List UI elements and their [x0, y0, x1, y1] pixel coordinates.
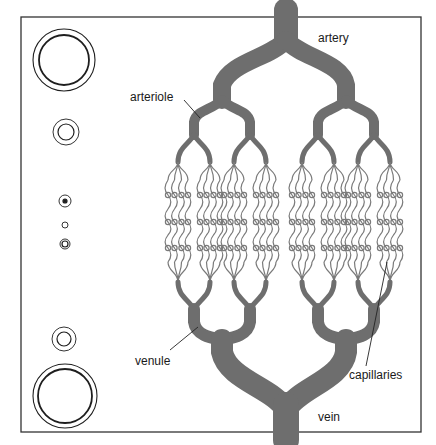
- venous-tree: [178, 282, 390, 440]
- cross-section-venule: [52, 327, 76, 351]
- arterial-tree: [178, 10, 390, 162]
- cross-section-capillary: [62, 222, 68, 228]
- cross-section-arteriole: [53, 119, 79, 145]
- capillary-bed: [165, 162, 403, 282]
- leader-lines: [170, 100, 387, 366]
- cross-section-small-venule: [60, 239, 70, 249]
- venule-leader: [170, 327, 198, 350]
- cross-section-vein: [33, 364, 97, 428]
- label-arteriole: arteriole: [130, 91, 173, 103]
- vessel-diagram: artery arteriole venule capillaries vein: [0, 0, 436, 445]
- cross-section-small-arteriole: [59, 195, 71, 207]
- label-artery: artery: [318, 32, 349, 44]
- label-venule: venule: [135, 355, 170, 367]
- cross-section-artery: [33, 29, 95, 91]
- label-vein: vein: [318, 411, 340, 423]
- label-capillaries: capillaries: [349, 369, 402, 381]
- cross-sections: [33, 29, 97, 428]
